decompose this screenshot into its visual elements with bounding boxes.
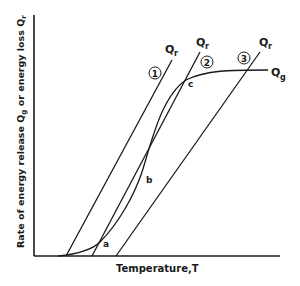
y-axis-label: Rate of energy release Qg or energy loss…	[15, 15, 28, 248]
qr-label-3: Q r	[259, 36, 272, 51]
qg-curve	[58, 70, 268, 256]
qr-line-1	[66, 60, 172, 256]
point-a-label: a	[103, 239, 109, 249]
marker-2: 2	[201, 56, 213, 68]
svg-text:Q: Q	[196, 36, 205, 49]
marker-3: 3	[238, 52, 250, 64]
qr-label-1: Q r	[165, 43, 178, 58]
svg-text:r: r	[268, 42, 272, 51]
x-axis-label: Temperature,T	[116, 263, 199, 274]
svg-text:Q: Q	[259, 36, 268, 49]
svg-text:2: 2	[204, 58, 210, 68]
svg-text:1: 1	[152, 69, 158, 79]
svg-text:r: r	[205, 42, 209, 51]
qg-label: Q g	[271, 66, 286, 82]
svg-text:Q: Q	[271, 66, 280, 79]
svg-text:3: 3	[241, 54, 247, 64]
svg-text:r: r	[174, 49, 178, 58]
marker-1: 1	[149, 67, 161, 79]
svg-text:Q: Q	[165, 43, 174, 56]
qr-label-2: Q r	[196, 36, 209, 51]
svg-text:g: g	[280, 73, 286, 82]
qr-line-2	[92, 52, 200, 256]
point-c-label: c	[188, 79, 193, 89]
diagram-canvas: 1 2 3 Q r Q r Q r Q g a b c	[0, 0, 300, 286]
svg-text:Rate of energy release Qg or e: Rate of energy release Qg or energy loss…	[15, 15, 28, 248]
point-b-label: b	[146, 175, 153, 185]
energy-balance-diagram: 1 2 3 Q r Q r Q r Q g a b c	[0, 0, 300, 286]
